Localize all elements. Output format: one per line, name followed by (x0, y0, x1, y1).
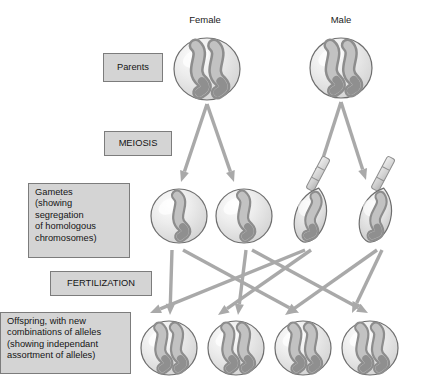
offspring-cell-3 (275, 321, 331, 375)
meiosis-arrow-female-left (180, 104, 207, 182)
egg-gamete-1 (151, 189, 207, 243)
label-text-meiosis: MEIOSIS (119, 138, 158, 149)
sperm-gamete-1 (286, 156, 333, 246)
header-label-female: Female (165, 14, 245, 25)
female-parent-cell (174, 38, 240, 100)
label-text-parents: Parents (117, 62, 149, 73)
label-text-offspring-line-2: combinations of alleles (7, 327, 124, 338)
label-text-gametes-line-1: Gametes (35, 187, 123, 198)
label-text-offspring-line-1: Offspring, with new (7, 316, 124, 327)
egg-gamete-2 (216, 189, 272, 243)
fertilization-arrow-sperm2-to-offspring4 (352, 250, 382, 313)
sperm-gamete-2 (351, 156, 398, 246)
label-box-parents: Parents (103, 53, 163, 82)
label-text-offspring-line-4: assortment of alleles) (7, 350, 124, 361)
label-box-meiosis: MEIOSIS (104, 131, 172, 156)
offspring-cell-1 (141, 321, 197, 375)
meiosis-fertilization-diagram: FemaleMale ParentsMEIOSISGametes(showing… (0, 0, 424, 387)
label-box-fertilization: FERTILIZATION (50, 271, 152, 296)
label-text-gametes-line-5: chromosomes) (35, 233, 123, 244)
male-parent-cell (310, 38, 372, 98)
label-box-gametes: Gametes(showingsegregationof homologousc… (28, 183, 130, 258)
label-text-fertilization: FERTILIZATION (67, 278, 135, 289)
offspring-cell-2 (208, 321, 264, 375)
label-text-gametes-line-4: of homologous (35, 221, 123, 232)
label-box-offspring: Offspring, with newcombinations of allel… (0, 312, 131, 374)
meiosis-arrow-female-right (207, 104, 235, 182)
label-text-offspring-line-3: (showing independant (7, 339, 124, 350)
header-label-male: Male (301, 14, 381, 25)
fertilization-arrow-egg2-to-offspring4 (252, 250, 368, 313)
sperm-gamete-2-tail (371, 156, 395, 192)
meiosis-arrow-male-right (341, 102, 367, 180)
sperm-gamete-1-tail (306, 156, 330, 192)
label-text-gametes-line-2: (showing (35, 198, 123, 209)
offspring-cell-4 (342, 321, 398, 375)
label-text-gametes-line-3: segregation (35, 210, 123, 221)
